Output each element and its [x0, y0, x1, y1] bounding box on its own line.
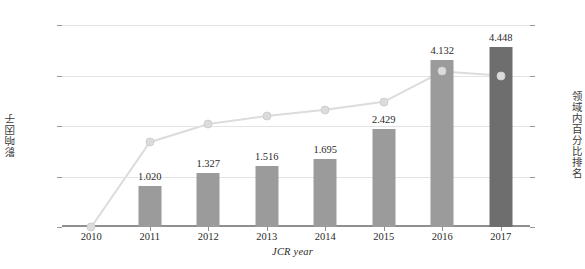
y-axis-right-tick — [530, 25, 535, 26]
bar-value-label-2014: 1.695 — [313, 144, 337, 155]
x-axis-tick-label: 2016 — [432, 231, 453, 242]
y-axis-left-tick — [57, 25, 62, 26]
bar-2015[interactable] — [372, 129, 395, 227]
line-marker-2011[interactable] — [145, 138, 154, 147]
y-axis-right-title: 领域内百分比排名 — [568, 91, 583, 179]
bar-value-label-2016: 4.132 — [430, 45, 454, 56]
bar-2013[interactable] — [255, 166, 278, 227]
bar-2014[interactable] — [314, 159, 337, 227]
y-axis-left-tick — [57, 126, 62, 127]
x-axis-tick-label: 2017 — [490, 231, 511, 242]
gridline — [62, 25, 530, 26]
y-axis-left-tick — [57, 227, 62, 228]
plot-area: 0.0001.2502.5003.7505.0000%25%50%75%100%… — [62, 25, 530, 227]
x-axis-tick-label: 2013 — [256, 231, 277, 242]
chart-container: 影响因子 领域内百分比排名 JCR year 0.0001.2502.5003.… — [0, 0, 585, 269]
y-axis-right-tick — [530, 76, 535, 77]
bar-value-label-2011: 1.020 — [138, 171, 162, 182]
bar-2011[interactable] — [138, 186, 161, 227]
line-marker-2014[interactable] — [321, 105, 330, 114]
x-axis-title: JCR year — [0, 246, 585, 257]
gridline — [62, 76, 530, 77]
gridline — [62, 177, 530, 178]
x-axis-tick-label: 2012 — [198, 231, 219, 242]
bar-value-label-2013: 1.516 — [255, 151, 279, 162]
x-axis-line — [62, 225, 530, 227]
line-marker-2017[interactable] — [496, 71, 505, 80]
y-axis-left-title: 影响因子 — [3, 113, 18, 157]
x-axis-tick-label: 2010 — [81, 231, 102, 242]
y-axis-left-tick — [57, 76, 62, 77]
x-axis-tick-label: 2014 — [315, 231, 336, 242]
x-axis-tick-label: 2011 — [139, 231, 160, 242]
y-axis-right-tick — [530, 177, 535, 178]
line-marker-2016[interactable] — [438, 67, 447, 76]
gridline — [62, 126, 530, 127]
bar-value-label-2015: 2.429 — [372, 114, 396, 125]
bar-value-label-2017: 4.448 — [489, 32, 513, 43]
y-axis-right-tick — [530, 227, 535, 228]
y-axis-right-tick — [530, 126, 535, 127]
bar-2012[interactable] — [197, 173, 220, 227]
bar-value-label-2012: 1.327 — [196, 158, 220, 169]
bar-2016[interactable] — [431, 60, 454, 227]
line-marker-2012[interactable] — [204, 119, 213, 128]
x-axis-tick-label: 2015 — [373, 231, 394, 242]
line-marker-2015[interactable] — [379, 97, 388, 106]
y-axis-left-tick — [57, 177, 62, 178]
line-marker-2013[interactable] — [262, 111, 271, 120]
